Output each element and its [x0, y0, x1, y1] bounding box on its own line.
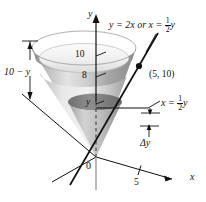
delta-y-dimension — [140, 108, 160, 137]
line-equation-prefix: y = 2x or x = — [109, 19, 165, 30]
point-label: (5, 10) — [149, 70, 174, 80]
point-5-10 — [136, 63, 142, 69]
line-equation-label: y = 2x or x = 12y — [109, 17, 175, 34]
y-level-label: y — [86, 98, 90, 108]
equation-leader — [146, 34, 156, 52]
height-label: 10 − y — [4, 67, 30, 77]
x-tick-label-5: 5 — [134, 178, 139, 188]
radius-prefix: x = — [161, 97, 177, 108]
line-equation-suffix: y — [171, 19, 175, 30]
y-tick-label-8: 8 — [82, 71, 87, 81]
x-axis-label: x — [190, 172, 194, 182]
origin-label: 0 — [86, 161, 91, 171]
y-axis-label: y — [88, 9, 92, 19]
cone-volume-diagram: y x 0 10 8 y 5 y = 2x or x = 12y (5, 10)… — [0, 0, 206, 202]
radius-label: x = 12y — [161, 95, 188, 112]
radius-suffix: y — [183, 97, 187, 108]
y-tick-label-10: 10 — [75, 50, 85, 60]
thickness-label: Δy — [140, 138, 150, 148]
